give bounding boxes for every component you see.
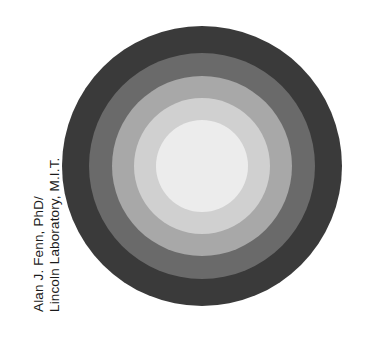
credit-text-rotated: Alan J. Fenn, PhD/ Lincoln Laboratory, M… [31,158,63,312]
ring-zone-5-center [156,120,248,212]
figure-canvas: Alan J. Fenn, PhD/ Lincoln Laboratory, M… [0,0,377,347]
credit-line-author: Alan J. Fenn, PhD/ [31,158,47,312]
credit-line-affiliation: Lincoln Laboratory, M.I.T. [47,158,63,312]
